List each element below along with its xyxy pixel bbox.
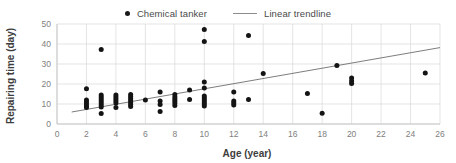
data-point xyxy=(334,63,339,68)
x-axis-tick-labels: 02468101214161820222426 xyxy=(55,129,445,139)
data-point xyxy=(187,88,192,93)
scatter-series-chemical-tanker xyxy=(84,27,428,116)
y-axis-tick-labels: 01020304050 xyxy=(42,19,52,129)
data-point xyxy=(231,103,236,108)
data-point xyxy=(305,91,310,96)
y-tick-10: 10 xyxy=(42,99,52,109)
data-point xyxy=(246,33,251,38)
data-point xyxy=(158,90,163,95)
x-tick-22: 22 xyxy=(376,129,386,139)
x-tick-26: 26 xyxy=(435,129,445,139)
data-point xyxy=(202,80,207,85)
data-point xyxy=(320,111,325,116)
x-tick-6: 6 xyxy=(143,129,148,139)
x-tick-14: 14 xyxy=(258,129,268,139)
x-axis-title: Age (year) xyxy=(223,148,272,159)
y-tick-0: 0 xyxy=(46,119,51,129)
x-tick-0: 0 xyxy=(55,129,60,139)
trendline xyxy=(72,48,440,112)
y-tick-30: 30 xyxy=(42,59,52,69)
x-tick-4: 4 xyxy=(114,129,119,139)
data-point xyxy=(128,104,133,109)
x-tick-20: 20 xyxy=(347,129,357,139)
data-point xyxy=(99,111,104,116)
plot-area: 01020304050 02468101214161820222426 Age … xyxy=(0,0,456,163)
data-point xyxy=(99,105,104,110)
data-point xyxy=(231,90,236,95)
trendline-series xyxy=(72,48,440,112)
x-tick-12: 12 xyxy=(229,129,239,139)
data-point xyxy=(113,101,118,106)
x-tick-10: 10 xyxy=(200,129,210,139)
data-point xyxy=(84,86,89,91)
y-tick-40: 40 xyxy=(42,39,52,49)
data-point xyxy=(99,47,104,52)
y-tick-50: 50 xyxy=(42,19,52,29)
data-point xyxy=(143,98,148,103)
data-point xyxy=(202,104,207,109)
data-point xyxy=(261,71,266,76)
y-axis-title: Repairing time (day) xyxy=(5,28,16,124)
data-point xyxy=(158,109,163,114)
data-point xyxy=(84,105,89,110)
data-point xyxy=(202,86,207,91)
scatter-chart: Chemical tanker Linear trendline 0102030… xyxy=(0,0,456,163)
data-point xyxy=(349,81,354,86)
x-tick-2: 2 xyxy=(84,129,89,139)
x-tick-16: 16 xyxy=(288,129,298,139)
x-tick-24: 24 xyxy=(406,129,416,139)
data-point xyxy=(423,71,428,76)
x-tick-8: 8 xyxy=(172,129,177,139)
data-point xyxy=(202,39,207,44)
y-tick-20: 20 xyxy=(42,79,52,89)
data-point xyxy=(246,97,251,102)
data-point xyxy=(158,102,163,107)
data-point xyxy=(113,105,118,110)
data-point xyxy=(187,97,192,102)
data-point xyxy=(202,27,207,32)
data-point xyxy=(172,103,177,108)
x-tick-18: 18 xyxy=(317,129,327,139)
